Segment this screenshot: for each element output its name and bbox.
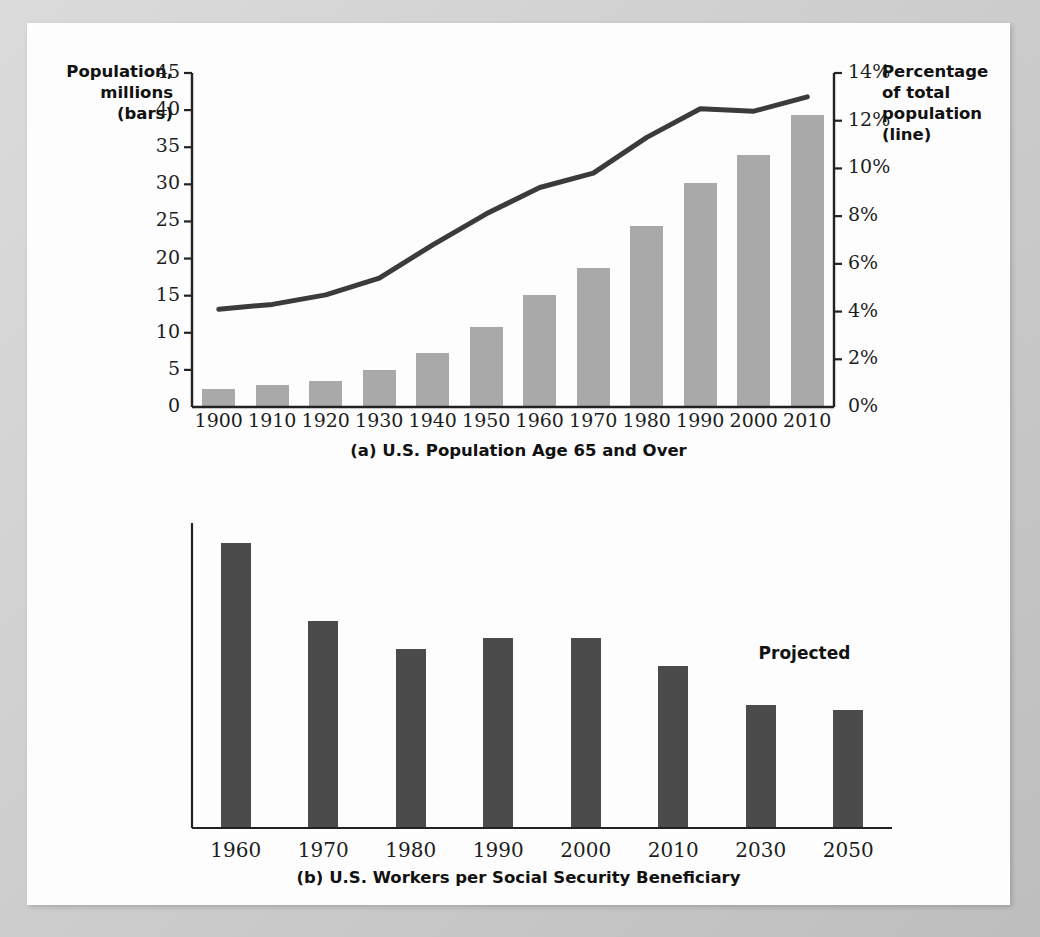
- chart-panel-a: Population, millions (bars) Percentage o…: [27, 23, 1010, 463]
- panel-a-x-label-2010: 2010: [781, 409, 835, 431]
- right-axis-title-line-1: Percentage: [882, 61, 1012, 82]
- panel-b-x-label-1970: 1970: [280, 838, 368, 862]
- panel-a-right-tick-label-14: 14%: [848, 60, 894, 82]
- panel-a-left-tick-label-5: 5: [140, 357, 180, 379]
- panel-b-x-label-2050: 2050: [805, 838, 893, 862]
- panel-a-left-tick-label-45: 45: [140, 60, 180, 82]
- projected-annotation: Projected: [725, 643, 885, 663]
- panel-b-x-label-2010: 2010: [630, 838, 718, 862]
- panel-a-x-label-1900: 1900: [192, 409, 246, 431]
- panel-a-caption: (a) U.S. Population Age 65 and Over: [27, 441, 1010, 460]
- panel-a-x-label-1950: 1950: [460, 409, 514, 431]
- panel-a-left-tick-label-35: 35: [140, 134, 180, 156]
- panel-a-left-tick-label-20: 20: [140, 246, 180, 268]
- panel-a-plot-area: [192, 73, 834, 407]
- panel-a-right-tick-label-4: 4%: [848, 299, 894, 321]
- panel-b-x-label-1990: 1990: [455, 838, 543, 862]
- panel-a-right-tick-label-2: 2%: [848, 346, 894, 368]
- panel-b-x-label-1960: 1960: [192, 838, 280, 862]
- panel-a-left-tick-label-40: 40: [140, 97, 180, 119]
- panel-a-right-tick-label-10: 10%: [848, 155, 894, 177]
- panel-a-x-label-1930: 1930: [353, 409, 407, 431]
- panel-a-x-label-2000: 2000: [727, 409, 781, 431]
- panel-a-left-tick-label-25: 25: [140, 208, 180, 230]
- panel-a-x-label-1940: 1940: [406, 409, 460, 431]
- panel-a-x-label-1980: 1980: [620, 409, 674, 431]
- panel-a-x-label-1910: 1910: [246, 409, 300, 431]
- panel-a-x-label-1990: 1990: [674, 409, 728, 431]
- panel-a-x-label-1970: 1970: [567, 409, 621, 431]
- panel-a-left-tick-label-15: 15: [140, 283, 180, 305]
- panel-b-x-label-1980: 1980: [367, 838, 455, 862]
- panel-a-axes: [192, 73, 834, 407]
- panel-a-left-tick-label-30: 30: [140, 171, 180, 193]
- right-axis-title-line-2: of total: [882, 82, 1012, 103]
- panel-a-left-tick-label-10: 10: [140, 320, 180, 342]
- panel-a-right-tick-label-12: 12%: [848, 108, 894, 130]
- panel-b-axes: [192, 523, 892, 828]
- panel-a-x-label-1920: 1920: [299, 409, 353, 431]
- panel-b-x-label-2030: 2030: [717, 838, 805, 862]
- panel-a-right-tick-label-6: 6%: [848, 251, 894, 273]
- panel-b-caption: (b) U.S. Workers per Social Security Ben…: [27, 868, 1010, 887]
- right-axis-title-line-4: (line): [882, 124, 1012, 145]
- panel-b-plot-area: [192, 523, 892, 828]
- panel-a-right-axis-title: Percentage of total population (line): [882, 61, 1012, 145]
- right-axis-title-line-3: population: [882, 103, 1012, 124]
- panel-a-left-tick-label-0: 0: [140, 394, 180, 416]
- panel-a-right-tick-label-0: 0%: [848, 394, 894, 416]
- chart-panel-b: 5.13.73.23.43.42.92.22.1 196019701980199…: [27, 463, 1010, 905]
- panel-a-right-tick-label-8: 8%: [848, 203, 894, 225]
- panel-a-x-label-1960: 1960: [513, 409, 567, 431]
- figure-page: Population, millions (bars) Percentage o…: [27, 23, 1010, 905]
- panel-b-x-label-2000: 2000: [542, 838, 630, 862]
